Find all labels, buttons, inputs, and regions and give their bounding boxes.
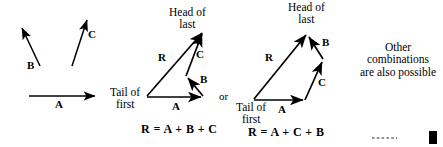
chain2-tail-label: Tail of first xyxy=(236,101,266,126)
label-given-vector-c: C xyxy=(88,29,96,41)
given-vector-c xyxy=(72,20,87,66)
note-line3: are also possible xyxy=(360,66,436,78)
or-connector: or xyxy=(219,91,228,103)
equation-a-c-b: R = A + C + B xyxy=(248,126,324,139)
other-combinations-note: Other combinations are also possible xyxy=(357,41,439,78)
label-chain1-vector-c: C xyxy=(196,49,204,61)
resize-handle-square[interactable] xyxy=(429,131,437,144)
chain2-head-line2: last xyxy=(298,13,314,25)
chain2-tail-line1: Tail of xyxy=(236,101,266,113)
label-chain2-vector-c: C xyxy=(318,77,326,89)
chain2-head-label: Head of last xyxy=(288,1,325,26)
label-chain1-vector-b: B xyxy=(200,74,207,86)
chain2-tail-line2: first xyxy=(236,113,261,125)
chain2-vector-b xyxy=(309,37,323,59)
label-chain1-vector-a: A xyxy=(172,101,180,113)
chain1-head-line1: Head of xyxy=(169,6,206,18)
chain1-vector-r xyxy=(147,33,202,96)
label-given-vector-b: B xyxy=(27,60,34,72)
chain2-vector-r xyxy=(254,35,306,99)
chain2-head-line1: Head of xyxy=(288,1,325,13)
equation-a-b-c: R = A + B + C xyxy=(141,123,217,136)
label-given-vector-a: A xyxy=(55,99,63,111)
label-chain2-vector-b: B xyxy=(322,37,329,49)
chain1-head-label: Head of last xyxy=(169,6,206,31)
note-line1: Other xyxy=(385,41,411,53)
vector-addition-figure: B C A Head of last Tail of first R C B A… xyxy=(0,0,443,147)
chain1-tail-line1: Tail of xyxy=(110,86,140,98)
chain1-tail-line2: first xyxy=(110,98,135,110)
label-chain2-vector-r: R xyxy=(265,52,273,64)
note-line2: combinations xyxy=(367,53,429,65)
label-chain1-vector-r: R xyxy=(158,52,166,64)
chain1-tail-label: Tail of first xyxy=(110,86,140,111)
label-chain2-vector-a: A xyxy=(278,104,286,116)
chain1-head-line2: last xyxy=(179,18,195,30)
